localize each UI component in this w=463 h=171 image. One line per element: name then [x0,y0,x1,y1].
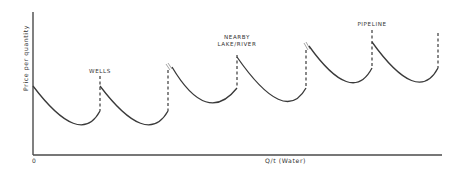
axis-break-mark-1 [166,63,172,70]
cost-curve-segment-6 [372,42,438,82]
annotation-lake-river: LAKE/RIVER [218,41,257,47]
annotation-nearby: NEARBY [224,34,250,40]
cost-curve-segment-5 [309,46,372,83]
cost-curve-segment-2 [100,86,168,125]
cost-curve-segment-1 [33,86,100,125]
annotation-wells: WELLS [89,68,111,74]
cost-curve-chart: Price per quantity Q/t (Water) 0 WELLS N… [0,0,463,171]
cost-curve-segment-4 [237,57,306,101]
annotation-pipeline: PIPELINE [357,21,386,27]
cost-curve-segment-3 [172,67,237,103]
y-axis-label: Price per quantity [22,25,30,91]
x-axis-label: Q/t (Water) [265,157,306,164]
origin-label: 0 [32,157,36,164]
